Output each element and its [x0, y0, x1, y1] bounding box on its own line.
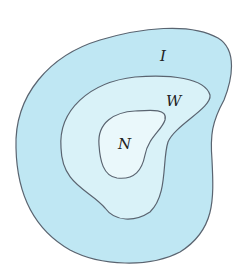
label-n: N — [117, 135, 132, 153]
label-i: I — [159, 47, 167, 65]
nested-regions-diagram: I W N — [0, 0, 244, 277]
label-w: W — [166, 92, 183, 110]
